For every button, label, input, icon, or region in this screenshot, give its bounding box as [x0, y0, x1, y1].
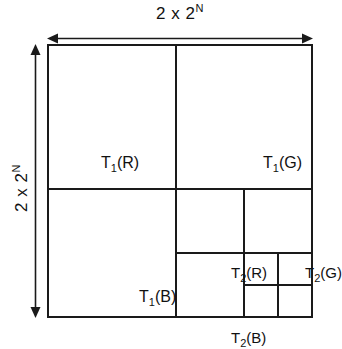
- left-dimension-prefix: 2 x 2: [12, 173, 31, 212]
- cell-t1b-suffix: (B): [155, 288, 176, 305]
- cell-t1r-suffix: (R): [117, 154, 139, 171]
- top-dimension-exponent: N: [195, 2, 203, 14]
- top-dimension-prefix: 2 x 2: [156, 4, 195, 23]
- cell-label-t1g: T1(G): [263, 154, 302, 172]
- level1-horizontal-divider: [49, 188, 311, 190]
- level2-horizontal-divider: [175, 252, 311, 254]
- level1-vertical-divider: [175, 46, 177, 316]
- cell-label-t1b: T1(B): [139, 288, 176, 306]
- cell-t2r-base: T: [231, 264, 240, 281]
- cell-t1r-base: T: [101, 154, 111, 171]
- cell-t2g-base: T: [305, 264, 314, 281]
- cell-label-t1r: T1(R): [101, 154, 139, 172]
- cell-label-t2r: T2(R): [231, 264, 267, 282]
- left-dimension-exponent: N: [10, 164, 22, 172]
- cell-t1g-base: T: [263, 154, 273, 171]
- cell-t1g-suffix: (G): [279, 154, 302, 171]
- cell-t2g-suffix: (G): [320, 264, 342, 281]
- horizontal-dimension-arrow-icon: [47, 33, 313, 44]
- level3-horizontal-divider: [243, 284, 311, 286]
- cell-t2r-suffix: (R): [246, 264, 267, 281]
- top-dimension-label: 2 x 2N: [47, 4, 313, 24]
- left-dimension-label: 2 x 2N: [12, 53, 32, 323]
- cell-label-t2b: T2(B): [231, 329, 266, 347]
- cell-t1b-base: T: [139, 288, 149, 305]
- cell-t2b-base: T: [231, 329, 240, 346]
- vertical-dimension-arrow-icon: [30, 44, 41, 318]
- cell-label-t2g: T2(G): [305, 264, 342, 282]
- outer-square-frame: T1(R) T1(G) T1(B) T2(R) T2(G) T2(B): [47, 44, 313, 318]
- cell-t2b-suffix: (B): [246, 329, 266, 346]
